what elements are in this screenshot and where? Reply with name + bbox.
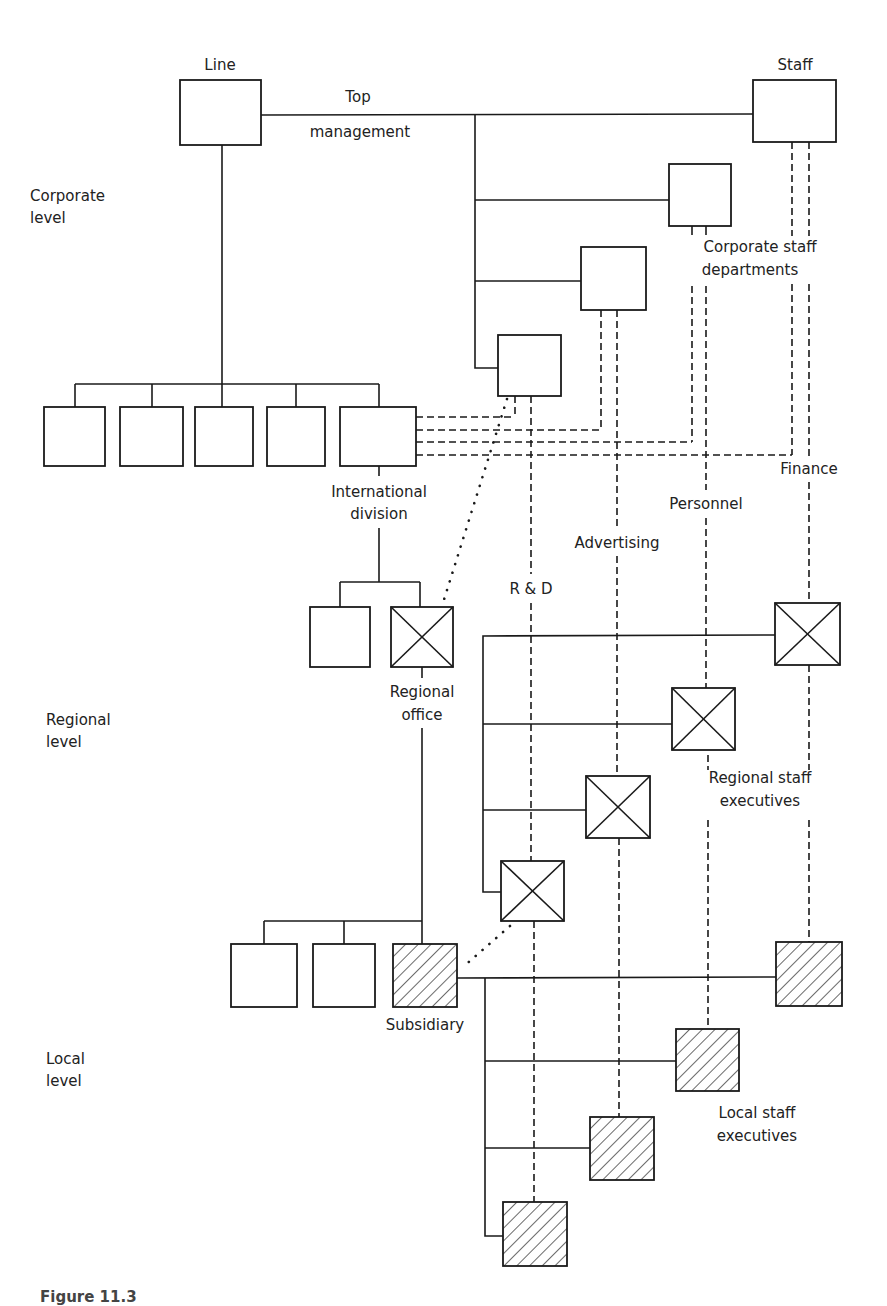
division-label: division [350, 505, 407, 523]
dotted-link-regional [463, 926, 510, 967]
line-label: Line [204, 56, 235, 74]
figure-caption: Figure 11.3 [40, 1288, 137, 1306]
svg-text:executives: executives [717, 1127, 798, 1145]
local-level-label: Local [46, 1050, 85, 1068]
corporate-staff-label: Corporate staff [704, 238, 818, 256]
corporate-staff-box-personnel [669, 164, 731, 226]
regional-exec-personnel [672, 688, 735, 750]
regional-office-label: Regional [390, 683, 455, 701]
top-management-line [261, 114, 753, 115]
function-label-personnel: Personnel [669, 495, 742, 513]
corporate-staff-box-rd [498, 335, 561, 396]
regional-staff-label: Regional staff [709, 769, 812, 787]
regional-exec-rd [501, 861, 564, 921]
local-exec-personnel [676, 1029, 739, 1091]
division-box [120, 407, 183, 466]
departments-label: departments [702, 261, 799, 279]
division-box [44, 407, 105, 466]
international-division-box [340, 407, 416, 466]
corporate-staff-box-advertising [581, 247, 646, 310]
regional-office-box [391, 607, 453, 667]
function-label-rd: R & D [509, 580, 552, 598]
local-exec-rd [503, 1202, 567, 1266]
local-staff-label: Local staff [719, 1104, 797, 1122]
regional-staff-bus [483, 635, 775, 892]
subsidiary-box [393, 944, 457, 1007]
svg-text:level: level [46, 1072, 82, 1090]
corporate-level-label: Corporate [30, 187, 105, 205]
regional-level-label: Regional [46, 711, 111, 729]
function-label-finance: Finance [780, 460, 837, 478]
function-label-advertising: Advertising [575, 534, 660, 552]
staff-top-box [753, 80, 836, 142]
svg-text:executives: executives [720, 792, 801, 810]
regional-exec-finance [775, 603, 840, 665]
local-exec-advertising [590, 1117, 654, 1180]
local-line-box [231, 944, 297, 1007]
international-label: International [331, 483, 427, 501]
svg-text:level: level [30, 209, 66, 227]
management-label: management [310, 123, 411, 141]
subsidiary-label: Subsidiary [386, 1016, 465, 1034]
local-exec-finance [776, 942, 842, 1006]
staff-trunk [475, 115, 498, 368]
svg-text:level: level [46, 733, 82, 751]
local-line-box [313, 944, 375, 1007]
svg-text:office: office [401, 706, 442, 724]
division-box [195, 407, 253, 466]
line-top-box [180, 80, 261, 145]
division-box [267, 407, 325, 466]
regional-line-box [310, 607, 370, 667]
staff-label: Staff [778, 56, 814, 74]
local-staff-bus [485, 978, 503, 1236]
top-label: Top [344, 88, 370, 106]
regional-exec-advertising [586, 776, 650, 838]
